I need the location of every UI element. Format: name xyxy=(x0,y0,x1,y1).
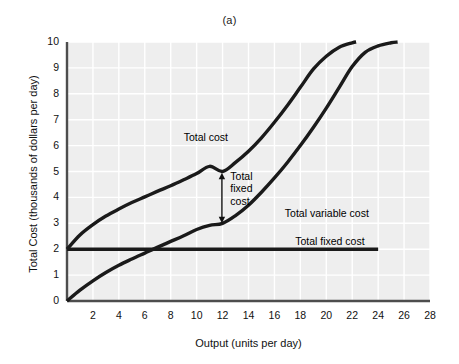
figure-panel-a: (a) Total Cost (thousands of dollars per… xyxy=(0,0,459,364)
curve-label-total-variable-cost: Total variable cost xyxy=(285,207,369,219)
y-tick-label: 10 xyxy=(37,35,59,47)
y-tick-label: 1 xyxy=(37,268,59,280)
annotation-label-line: fixed xyxy=(230,182,266,195)
x-tick-label: 22 xyxy=(340,309,364,321)
x-tick-label: 16 xyxy=(262,309,286,321)
x-tick-label: 24 xyxy=(366,309,390,321)
x-tick-label: 2 xyxy=(81,309,105,321)
x-tick-label: 12 xyxy=(211,309,235,321)
x-tick-label: 6 xyxy=(133,309,157,321)
x-tick-label: 14 xyxy=(237,309,261,321)
y-tick-label: 5 xyxy=(37,165,59,177)
y-tick-label: 2 xyxy=(37,242,59,254)
y-tick-label: 3 xyxy=(37,216,59,228)
y-tick-label: 0 xyxy=(37,294,59,306)
x-tick-label: 26 xyxy=(392,309,416,321)
x-tick-label: 18 xyxy=(288,309,312,321)
x-tick-label: 10 xyxy=(185,309,209,321)
y-tick-label: 9 xyxy=(37,61,59,73)
x-tick-label: 4 xyxy=(107,309,131,321)
annotation-label-total-fixed-cost: Totalfixedcost xyxy=(230,170,266,208)
y-tick-label: 4 xyxy=(37,190,59,202)
annotation-label-line: cost xyxy=(230,195,266,208)
x-tick-label: 8 xyxy=(159,309,183,321)
curve-label-total-fixed-cost: Total fixed cost xyxy=(295,235,364,247)
y-tick-label: 8 xyxy=(37,87,59,99)
x-tick-label: 20 xyxy=(314,309,338,321)
curve-label-total-cost: Total cost xyxy=(184,131,228,143)
x-tick-label: 28 xyxy=(418,309,442,321)
y-tick-label: 7 xyxy=(37,113,59,125)
y-tick-label: 6 xyxy=(37,139,59,151)
annotation-label-line: Total xyxy=(230,170,266,183)
